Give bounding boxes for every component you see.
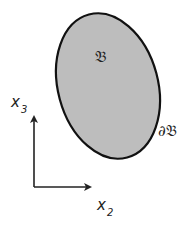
region-label: 𝔅 bbox=[95, 47, 107, 66]
svg-text:3: 3 bbox=[21, 104, 27, 115]
svg-text:2: 2 bbox=[107, 207, 113, 218]
svg-text:x: x bbox=[10, 93, 20, 111]
vertical-axis-label: x 3 bbox=[10, 93, 27, 115]
body-region bbox=[41, 2, 176, 171]
svg-text:x: x bbox=[96, 196, 106, 214]
body-diagram: 𝔅 ∂𝔅 x 3 x 2 bbox=[0, 0, 192, 228]
boundary-label: ∂𝔅 bbox=[158, 122, 177, 140]
horizontal-axis-label: x 2 bbox=[96, 196, 113, 218]
